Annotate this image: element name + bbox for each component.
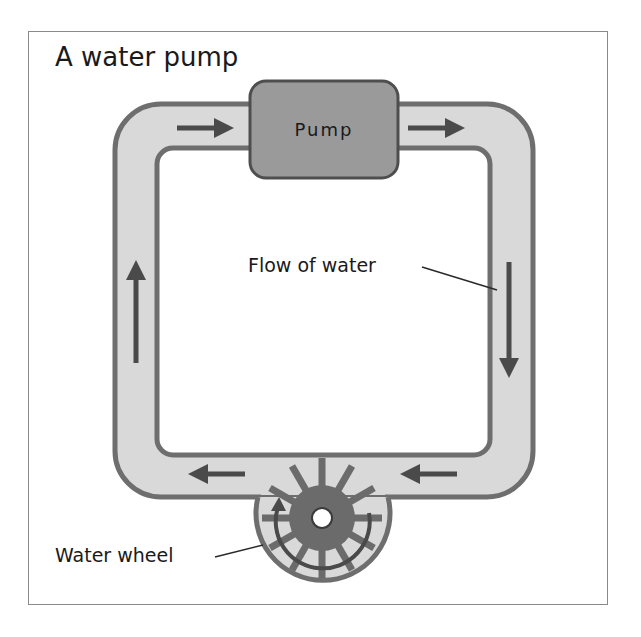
- diagram-title: A water pump: [55, 42, 238, 72]
- wheel-axle: [312, 508, 332, 528]
- water-wheel-label: Water wheel: [55, 544, 173, 566]
- flow-of-water-label: Flow of water: [248, 254, 376, 276]
- pump-label: Pump: [250, 81, 398, 178]
- wheel-leader-line: [215, 545, 263, 557]
- water-wheel: [256, 458, 390, 580]
